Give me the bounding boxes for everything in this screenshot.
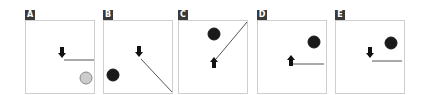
panel-a: A bbox=[25, 10, 95, 94]
panel-e: E bbox=[335, 10, 405, 94]
ball-icon bbox=[385, 37, 397, 49]
trajectory-line bbox=[141, 59, 172, 92]
arrow-down-icon bbox=[366, 47, 374, 58]
panel-label: D bbox=[257, 10, 267, 20]
panel-scene bbox=[257, 20, 327, 94]
ball-icon bbox=[308, 36, 320, 48]
panel-scene bbox=[103, 20, 173, 94]
panel-scene bbox=[178, 20, 248, 94]
arrow-down-icon bbox=[58, 47, 66, 58]
panel-label: E bbox=[335, 10, 345, 20]
panel-label: B bbox=[103, 10, 113, 20]
panel-scene bbox=[335, 20, 405, 94]
panel-label: A bbox=[25, 10, 35, 20]
panel-scene bbox=[25, 20, 95, 94]
ball-icon bbox=[107, 69, 119, 81]
trajectory-line bbox=[216, 22, 247, 59]
panel-label: C bbox=[178, 10, 188, 20]
panel-c: C bbox=[178, 10, 248, 94]
panel-d: D bbox=[257, 10, 327, 94]
ball-icon bbox=[208, 28, 220, 40]
arrow-down-icon bbox=[135, 46, 143, 57]
panel-b: B bbox=[103, 10, 173, 94]
ball-icon bbox=[80, 72, 92, 84]
